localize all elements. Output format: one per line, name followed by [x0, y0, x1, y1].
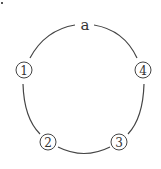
edge-2-3 [58, 147, 110, 154]
top-label-a: a [81, 16, 90, 34]
node-4-label: 4 [139, 64, 147, 78]
edge-a-4 [94, 25, 137, 58]
edge-a-1 [30, 25, 75, 58]
node-3: 3 [111, 134, 127, 150]
node-1: 1 [16, 62, 32, 78]
node-1-label: 1 [20, 64, 28, 78]
node-2: 2 [40, 134, 56, 150]
node-3-label: 3 [115, 136, 123, 150]
edge-4-3 [128, 84, 144, 134]
node-4: 4 [135, 62, 151, 78]
edge-1-2 [23, 84, 40, 134]
cycle-diagram: a 1 2 3 4 [0, 0, 161, 169]
node-2-label: 2 [44, 136, 52, 150]
corner-dot [1, 2, 3, 4]
